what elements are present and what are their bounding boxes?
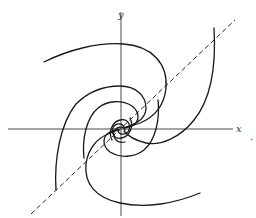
phase-portrait-diagram: y x . [0, 0, 256, 218]
trajectory-right [124, 28, 214, 144]
trailing-period: . [250, 131, 253, 142]
x-axis-label: x [236, 123, 242, 134]
trajectory-outer-lower [86, 130, 200, 205]
dashed-diagonal-line [31, 20, 235, 214]
y-axis-label: y [117, 9, 124, 20]
trajectory-outer-upper [44, 44, 166, 128]
